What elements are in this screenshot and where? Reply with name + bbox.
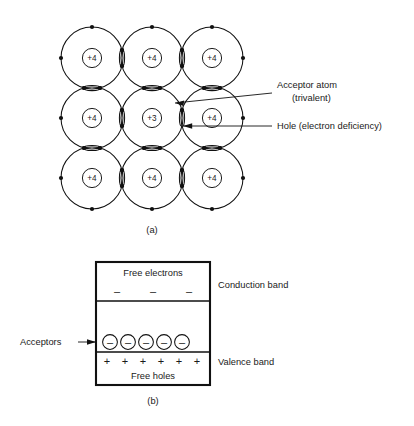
bond-electron-dot xyxy=(158,86,162,90)
bond-electron-dot xyxy=(218,146,222,150)
acceptor-level-row: – – – – – xyxy=(103,335,190,350)
acceptor-ion: – xyxy=(139,335,154,350)
acceptors-label: Acceptors xyxy=(20,337,62,347)
bond-electron-dot xyxy=(180,64,184,68)
valence-band-label: Valence band xyxy=(218,357,274,367)
bond-electron-dot xyxy=(120,124,124,128)
hole-carrier-symbol: + xyxy=(158,355,164,367)
bond-electron-dot xyxy=(120,108,124,112)
atom-core-label: +4 xyxy=(147,174,157,183)
bond-electron-dot xyxy=(120,184,124,188)
free-holes-label: Free holes xyxy=(131,371,175,381)
bond-electron-dot xyxy=(82,146,86,150)
bond-electron-dot xyxy=(98,86,102,90)
atom-r1-c1-acceptor: +3 xyxy=(121,87,183,149)
electron-dot xyxy=(59,176,63,180)
bond-electron-dot xyxy=(120,48,124,52)
atom-r2-c0: +4 xyxy=(61,147,123,209)
annotation-leaders xyxy=(175,93,272,129)
atom-r1-c2: +4 xyxy=(181,87,243,149)
electron-dot xyxy=(90,25,94,29)
bond-electron-dot xyxy=(120,168,124,172)
bond-electron-dot xyxy=(180,184,184,188)
bond-electron-dot xyxy=(158,146,162,150)
acceptor-atom-label-line1: Acceptor atom xyxy=(277,80,337,90)
acceptors-arrowhead xyxy=(87,339,96,345)
bond-electron-dot xyxy=(180,48,184,52)
electron-dot xyxy=(59,56,63,60)
atom-core-label: +4 xyxy=(207,174,217,183)
part-b-caption: (b) xyxy=(147,396,158,406)
bond-electron-dot xyxy=(98,146,102,150)
electron-dot xyxy=(150,207,154,211)
figure-svg: +4 +4 +4 +4 +3 xyxy=(0,0,414,426)
hole-carrier-symbol: + xyxy=(176,355,182,367)
acceptor-ion: – xyxy=(157,335,172,350)
acceptor-ion: – xyxy=(175,335,190,350)
atom-core-label: +4 xyxy=(207,114,217,123)
free-hole-carriers: + + + + + + xyxy=(104,355,200,367)
acceptor-ion-symbol: – xyxy=(143,336,150,348)
atom-core-label: +4 xyxy=(87,54,97,63)
electron-dot xyxy=(241,56,245,60)
electron-carrier-symbol: – xyxy=(186,285,193,297)
acceptor-ion: – xyxy=(121,335,136,350)
free-electrons-label: Free electrons xyxy=(123,268,183,278)
acceptor-atom-core-label: +3 xyxy=(147,114,157,123)
electron-carrier-symbol: – xyxy=(114,285,121,297)
electron-dot xyxy=(241,116,245,120)
atom-r0-c0: +4 xyxy=(61,27,123,89)
atom-core-label: +4 xyxy=(147,54,157,63)
acceptor-ion-symbol: – xyxy=(125,336,132,348)
electron-dot xyxy=(59,116,63,120)
acceptor-ion-symbol: – xyxy=(107,336,114,348)
acceptor-ion: – xyxy=(103,335,118,350)
band-diagram-group: Free electrons – – – – – – xyxy=(20,262,288,406)
electron-dot xyxy=(90,207,94,211)
atom-core-label: +4 xyxy=(87,114,97,123)
hole-carrier-symbol: + xyxy=(104,355,110,367)
electron-dot xyxy=(210,207,214,211)
free-electron-carriers: – – – xyxy=(114,285,193,297)
atom-r0-c2: +4 xyxy=(181,27,243,89)
hole-carrier-symbol: + xyxy=(140,355,146,367)
acceptor-leader-line xyxy=(175,93,272,103)
atom-core-label: +4 xyxy=(207,54,217,63)
lattice-group: +4 +4 +4 +4 +3 xyxy=(59,25,382,235)
atom-core-label: +4 xyxy=(87,174,97,183)
electron-dot xyxy=(150,25,154,29)
bond-electron-dot xyxy=(180,168,184,172)
hole-carrier-symbol: + xyxy=(194,355,200,367)
atom-r0-c1: +4 xyxy=(121,27,183,89)
bond-electron-dot xyxy=(120,64,124,68)
acceptor-ion-symbol: – xyxy=(179,336,186,348)
bond-electron-dot xyxy=(202,86,206,90)
bond-electron-dot xyxy=(180,108,184,112)
electron-carrier-symbol: – xyxy=(150,285,157,297)
bond-electron-dot xyxy=(142,146,146,150)
atom-r1-c0: +4 xyxy=(61,87,123,149)
bond-electron-dot xyxy=(82,86,86,90)
bond-electron-dot xyxy=(218,86,222,90)
figure-root: +4 +4 +4 +4 +3 xyxy=(0,0,414,426)
electron-dot xyxy=(241,176,245,180)
conduction-band-label: Conduction band xyxy=(218,280,288,290)
part-a-caption: (a) xyxy=(146,225,157,235)
bond-electron-dot xyxy=(142,86,146,90)
acceptor-atom-label-line2: (trivalent) xyxy=(292,93,331,103)
acceptor-ion-symbol: – xyxy=(161,336,168,348)
atom-r2-c1: +4 xyxy=(121,147,183,209)
hole-carrier-symbol: + xyxy=(122,355,128,367)
electron-dot xyxy=(210,25,214,29)
hole-label: Hole (electron deficiency) xyxy=(277,121,382,131)
bond-electron-dot xyxy=(202,146,206,150)
atom-r2-c2: +4 xyxy=(181,147,243,209)
acceptor-arrowhead xyxy=(175,100,184,106)
